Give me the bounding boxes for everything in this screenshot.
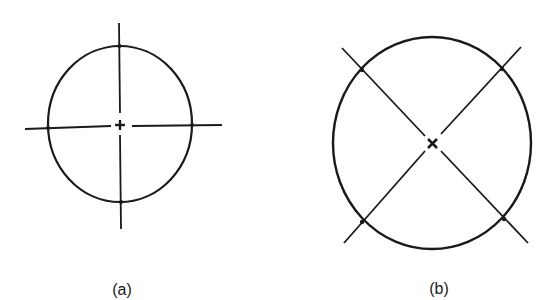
vertical-centerline-top	[119, 23, 120, 113]
diagonal-centerline-bl	[344, 151, 425, 243]
diagonal-centerline-tr	[441, 47, 521, 134]
panel-a-label: (a)	[112, 281, 132, 299]
diagonal-centerline-tl	[342, 48, 425, 136]
panel-b-label: (b)	[429, 280, 449, 298]
horizontal-centerline-left	[25, 126, 111, 129]
intersection-dot	[118, 44, 122, 48]
diagram-canvas	[0, 0, 542, 300]
horizontal-centerline-right	[132, 125, 222, 126]
panel-b-drawing	[333, 37, 531, 249]
intersection-dot	[502, 217, 506, 221]
intersection-dot	[46, 126, 50, 130]
intersection-dot	[119, 200, 123, 204]
diagonal-centerline-br	[441, 151, 528, 243]
panel-a-drawing	[25, 23, 222, 229]
vertical-centerline-bottom	[120, 135, 121, 229]
intersection-dot	[500, 67, 504, 71]
figure: (a) (b)	[0, 0, 542, 300]
intersection-dot	[360, 220, 364, 224]
intersection-dot	[190, 123, 194, 127]
intersection-dot	[360, 68, 364, 72]
